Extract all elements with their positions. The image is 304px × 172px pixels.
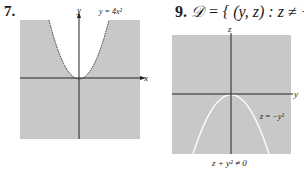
y-axis-label-9: y [294,89,298,99]
z-axis-label-9: z [228,24,232,34]
figure-9-caption: z + y² ≠ 0 [212,158,247,168]
figure-9 [0,0,304,172]
curve-label-9: z = −y² [260,112,284,121]
